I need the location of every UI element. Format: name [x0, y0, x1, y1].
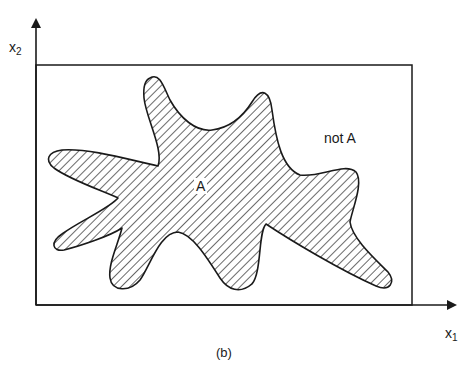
set-a-region: [48, 77, 391, 290]
y-axis-label-main: x: [9, 39, 16, 55]
x-axis-label: x1: [445, 326, 458, 340]
set-a-label: A: [194, 178, 207, 194]
y-axis-label: x2: [9, 40, 22, 54]
complement-label: not A: [324, 131, 356, 145]
y-axis-label-subscript: 2: [16, 46, 22, 57]
figure-caption: (b): [216, 346, 232, 359]
x-axis-label-main: x: [445, 325, 452, 341]
x-axis-label-subscript: 1: [452, 332, 458, 343]
set-diagram: [0, 0, 465, 370]
